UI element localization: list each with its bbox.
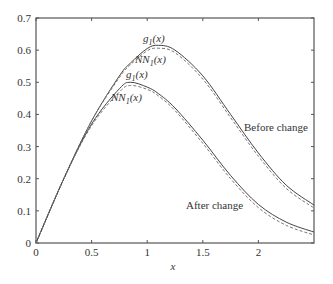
curve-3 [36, 85, 314, 243]
x-tick-label: 1 [144, 246, 150, 258]
y-tick-label: 0.2 [17, 173, 31, 185]
y-tick-label: 0.1 [17, 205, 31, 217]
annotation-before-change: Before change [244, 121, 308, 133]
y-tick-label: 0.4 [17, 108, 31, 120]
label-nn1-before: NN1(x) [134, 53, 166, 68]
curve-1 [36, 48, 314, 243]
y-tick-label: 0.5 [17, 76, 31, 88]
line-chart: 00.511.5200.10.20.30.40.50.60.7 x g1(x) … [0, 0, 333, 284]
annotation-after-change: After change [186, 199, 243, 211]
y-tick-label: 0.6 [17, 44, 31, 56]
curves [36, 45, 314, 243]
y-tick-label: 0.7 [17, 12, 31, 24]
y-tick-label: 0 [26, 237, 32, 249]
label-g1-before: g1(x) [143, 32, 165, 47]
label-nn1-after: NN1(x) [110, 91, 142, 106]
y-tick-label: 0.3 [17, 141, 31, 153]
axis-ticks: 00.511.5200.10.20.30.40.50.60.7 [17, 12, 314, 258]
x-tick-label: 1.5 [196, 246, 210, 258]
x-tick-label: 0.5 [85, 246, 99, 258]
label-g1-after: g1(x) [126, 68, 148, 83]
x-tick-label: 2 [256, 246, 262, 258]
x-axis-label: x [170, 260, 176, 272]
curve-0 [36, 45, 314, 243]
curve-2 [36, 82, 314, 243]
x-tick-label: 0 [33, 246, 39, 258]
